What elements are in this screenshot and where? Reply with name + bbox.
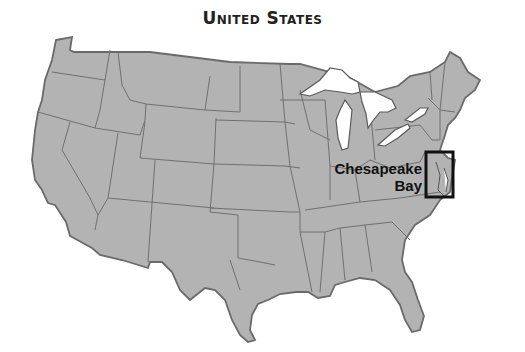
us-map [0, 0, 525, 352]
label-line-1: Chesapeake [328, 160, 422, 177]
label-line-2: Bay [328, 177, 422, 194]
chesapeake-bay-label: Chesapeake Bay [328, 160, 422, 194]
